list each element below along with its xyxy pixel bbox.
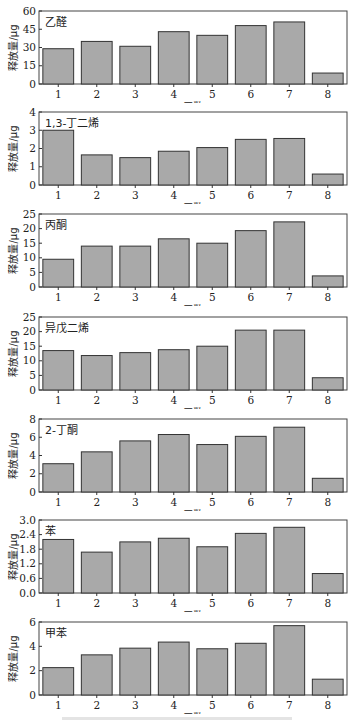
chart-butadiene: 01234释放量/μg12345678口数1,3-丁二烯 xyxy=(0,101,354,204)
chart-title: 甲苯 xyxy=(45,626,67,640)
bar xyxy=(81,155,112,185)
chart-title: 1,3-丁二烯 xyxy=(45,117,99,130)
bar-chart-svg: 0.00.61.21.82.43.0释放量/μg12345678口数苯 xyxy=(0,509,354,612)
y-tick-label: 4 xyxy=(29,640,36,652)
bar xyxy=(120,246,151,287)
x-tick-label: 4 xyxy=(170,291,177,303)
y-axis: 0246 xyxy=(29,616,42,701)
y-tick-label: 0 xyxy=(29,384,36,396)
x-tick-label: 3 xyxy=(132,291,139,303)
bar xyxy=(120,46,151,84)
bar xyxy=(81,655,112,695)
x-tick-label: 8 xyxy=(324,597,331,609)
chart-title: 苯 xyxy=(45,524,56,538)
bar xyxy=(274,427,305,492)
y-axis-label: 释放量/μg xyxy=(7,533,19,579)
bar xyxy=(158,32,189,84)
x-tick-label: 4 xyxy=(170,699,177,711)
bar xyxy=(81,356,112,390)
x-tick-label: 7 xyxy=(286,496,293,508)
bar xyxy=(81,41,112,84)
x-tick-label: 4 xyxy=(170,597,177,609)
x-tick-label: 2 xyxy=(93,394,100,406)
y-tick-label: 0 xyxy=(29,179,36,191)
x-tick-label: 3 xyxy=(132,496,139,508)
bars xyxy=(43,222,343,287)
bar xyxy=(312,478,343,492)
bar xyxy=(158,350,189,390)
bar xyxy=(120,542,151,593)
y-tick-label: 10 xyxy=(23,251,36,263)
x-tick-label: 3 xyxy=(132,189,139,201)
bar xyxy=(312,574,343,593)
chart-butanone: 02468释放量/μg12345678口数2-丁酮 xyxy=(0,408,354,511)
x-tick-label: 7 xyxy=(286,699,293,711)
y-tick-label: 8 xyxy=(29,413,36,425)
bar xyxy=(197,649,228,695)
x-tick-label: 5 xyxy=(209,189,216,201)
x-axis: 12345678 xyxy=(55,695,331,711)
y-tick-label: 60 xyxy=(23,5,36,17)
bar-chart-svg: 01234释放量/μg12345678口数1,3-丁二烯 xyxy=(0,101,354,204)
x-tick-label: 2 xyxy=(93,597,100,609)
x-tick-label: 5 xyxy=(209,496,216,508)
bar xyxy=(274,22,305,84)
x-tick-label: 5 xyxy=(209,88,216,100)
y-tick-label: 0 xyxy=(29,486,36,498)
y-axis-label: 释放量/μg xyxy=(7,635,19,681)
x-tick-label: 2 xyxy=(93,189,100,201)
x-tick-label: 1 xyxy=(55,291,62,303)
x-tick-label: 2 xyxy=(93,496,100,508)
bars xyxy=(43,130,343,185)
y-tick-label: 5 xyxy=(29,266,36,278)
x-tick-label: 2 xyxy=(93,291,100,303)
bar xyxy=(235,231,266,287)
bar xyxy=(274,330,305,390)
x-tick-label: 5 xyxy=(209,291,216,303)
bar xyxy=(197,445,228,492)
y-tick-label: 2 xyxy=(29,664,36,676)
x-tick-label: 5 xyxy=(209,597,216,609)
bars xyxy=(43,427,343,492)
chart-toluene: 0246释放量/μg12345678口数甲苯 xyxy=(0,611,354,714)
y-tick-label: 6 xyxy=(29,616,36,628)
bars xyxy=(43,626,343,695)
x-tick-label: 3 xyxy=(132,88,139,100)
y-tick-label: 6 xyxy=(29,431,36,443)
chart-acetone: 0510152025释放量/μg12345678口数丙酮 xyxy=(0,203,354,306)
x-tick-label: 6 xyxy=(247,496,254,508)
x-axis: 12345678 xyxy=(55,390,331,406)
x-tick-label: 4 xyxy=(170,189,177,201)
y-tick-label: 1.8 xyxy=(19,543,36,555)
y-axis: 02468 xyxy=(29,413,42,498)
y-tick-label: 15 xyxy=(23,340,36,352)
bar xyxy=(197,243,228,287)
bar xyxy=(43,130,74,185)
y-tick-label: 2 xyxy=(29,467,36,479)
bar-chart-svg: 02468释放量/μg12345678口数2-丁酮 xyxy=(0,408,354,511)
x-tick-label: 7 xyxy=(286,291,293,303)
x-tick-label: 8 xyxy=(324,88,331,100)
bar xyxy=(235,533,266,593)
y-tick-label: 0.6 xyxy=(19,572,36,584)
bar-chart-svg: 0510152025释放量/μg12345678口数异戊二烯 xyxy=(0,306,354,409)
bar-chart-svg: 015304560释放量/μg12345678口数乙醛 xyxy=(0,0,354,103)
y-axis-label: 释放量/μg xyxy=(7,330,19,376)
chart-benzene: 0.00.61.21.82.43.0释放量/μg12345678口数苯 xyxy=(0,509,354,612)
bar xyxy=(158,239,189,287)
y-tick-label: 20 xyxy=(23,325,36,337)
y-tick-label: 2 xyxy=(29,142,36,154)
bar xyxy=(43,49,74,84)
x-tick-label: 1 xyxy=(55,88,62,100)
x-tick-label: 8 xyxy=(324,291,331,303)
x-axis: 12345678 xyxy=(55,185,331,201)
y-tick-label: 25 xyxy=(23,311,36,323)
bar-chart-svg: 0510152025释放量/μg12345678口数丙酮 xyxy=(0,203,354,306)
chart-title: 2-丁酮 xyxy=(45,424,78,437)
y-axis: 01234 xyxy=(29,106,42,191)
x-tick-label: 2 xyxy=(93,88,100,100)
x-tick-label: 3 xyxy=(132,597,139,609)
y-tick-label: 0 xyxy=(29,281,36,293)
y-tick-label: 0.0 xyxy=(19,587,36,599)
y-tick-label: 15 xyxy=(23,59,36,71)
